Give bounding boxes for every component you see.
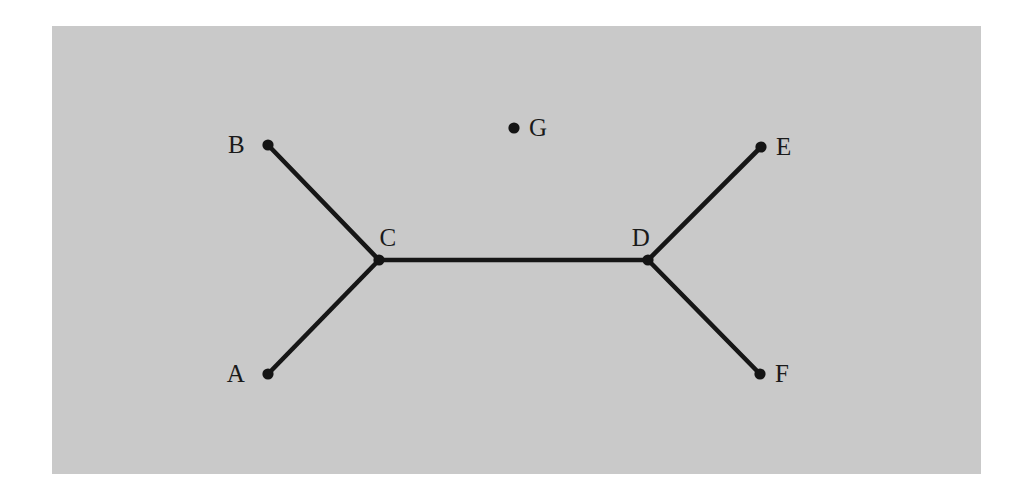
node-label-f: F (775, 360, 789, 387)
graph-node-a (262, 368, 273, 379)
node-label-d: D (632, 224, 650, 251)
graph-node-d (642, 254, 653, 265)
node-label-a: A (227, 360, 245, 387)
node-label-c: C (380, 224, 397, 251)
graph-node-f (754, 368, 765, 379)
graph-node-c (373, 254, 384, 265)
graph-node-b (262, 139, 273, 150)
node-label-e: E (776, 133, 792, 160)
figure-root: ABCDEFG (0, 0, 1029, 498)
node-label-b: B (228, 131, 245, 158)
graph-node-g (508, 122, 519, 133)
gray-plate-background (52, 26, 981, 474)
node-label-g: G (529, 114, 547, 141)
graph-node-e (755, 141, 766, 152)
graph-diagram-canvas: ABCDEFG (0, 0, 1029, 498)
